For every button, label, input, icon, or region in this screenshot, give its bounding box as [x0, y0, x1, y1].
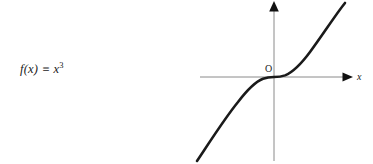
identity-symbol: ≡	[42, 62, 49, 76]
cubic-curve	[197, 3, 345, 161]
figure-canvas: f(x)≡x3 O x	[0, 0, 373, 164]
formula-close-paren: )	[34, 62, 38, 76]
y-axis-arrow-icon	[269, 1, 279, 12]
function-definition-formula: f(x)≡x3	[20, 62, 64, 77]
cubic-graph: O x	[190, 0, 373, 164]
origin-label: O	[265, 63, 272, 74]
x-axis-arrow-icon	[343, 72, 354, 81]
formula-expression-exponent: 3	[59, 60, 63, 70]
x-axis-label: x	[356, 71, 362, 82]
